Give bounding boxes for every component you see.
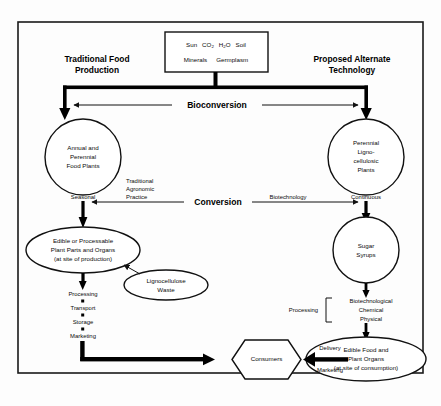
node-edible-food-line3: (at site of consumption) bbox=[334, 364, 398, 371]
sugar-to-processing-arrowhead bbox=[362, 290, 369, 298]
node-waste-line2: Waste bbox=[157, 286, 175, 293]
bracket-item-chemical: Chemical bbox=[359, 307, 384, 313]
chain-bullet-2 bbox=[81, 314, 84, 317]
node-consumers-label: Consumers bbox=[251, 355, 283, 362]
processing-bracket bbox=[326, 298, 332, 322]
heading-right-line1: Proposed Alternate bbox=[314, 54, 391, 64]
bracket-item-physical: Physical bbox=[360, 316, 382, 322]
edge-label-traditional-line3: Practice bbox=[126, 194, 148, 200]
node-sugar-line2: Syrups bbox=[356, 251, 375, 258]
bar-right-arrowhead bbox=[361, 108, 372, 120]
chain-item-marketing: Marketing bbox=[70, 333, 96, 339]
edge-label-seasonal: Seasonal bbox=[71, 194, 96, 200]
edge-label-processing: Processing bbox=[289, 307, 318, 313]
node-ligno-line1: Perennial bbox=[353, 139, 379, 146]
chain-bullet-3 bbox=[81, 328, 84, 331]
node-edible-proc-line1: Edible or Processable bbox=[53, 237, 114, 244]
node-ligno-line3: cellulosic bbox=[353, 157, 378, 164]
node-waste-line1: Lignocellulose bbox=[146, 277, 186, 284]
node-annual-line2: Perennial bbox=[70, 153, 96, 160]
edge-label-traditional-line1: Traditional bbox=[126, 178, 153, 184]
chain-item-storage: Storage bbox=[73, 319, 94, 325]
diagram-canvas: SunCO2H2OSoil MineralsGermplasm Traditio… bbox=[0, 0, 441, 406]
delivery-arrow-shaft bbox=[312, 357, 348, 361]
chain-bullet-1 bbox=[81, 300, 84, 303]
heading-right-line2: Technology bbox=[329, 65, 376, 75]
node-edible-proc-line3: (at site of production) bbox=[54, 255, 112, 262]
edge-label-traditional-line2: Agronomic bbox=[126, 186, 154, 192]
edible-to-chain-arrowhead bbox=[79, 281, 87, 290]
chain-item-processing: Processing bbox=[68, 291, 97, 297]
heading-left-line1: Traditional Food bbox=[64, 54, 129, 64]
bioconversion-flowchart: SunCO2H2OSoil MineralsGermplasm Traditio… bbox=[0, 0, 441, 406]
node-edible-food-line2: Plant Organs bbox=[348, 355, 384, 362]
node-sugar-line1: Sugar bbox=[358, 242, 375, 249]
bracket-item-biotechnological: Biotechnological bbox=[350, 298, 393, 304]
continuous-shaft bbox=[364, 201, 367, 215]
node-edible-proc-line2: Plant Parts and Organs bbox=[51, 246, 115, 253]
edge-label-marketing: Marketing bbox=[317, 367, 343, 373]
waste-to-edible-arrow bbox=[124, 265, 140, 274]
seasonal-shaft bbox=[81, 201, 84, 219]
node-ligno-line2: Ligno- bbox=[357, 148, 374, 155]
edge-label-delivery: Delivery bbox=[319, 345, 340, 351]
node-annual-line1: Annual and bbox=[67, 144, 99, 151]
inputs-stem bbox=[214, 72, 218, 87]
heading-left-line2: Production bbox=[75, 65, 119, 75]
bar-left-arrowhead bbox=[59, 108, 70, 120]
chain-to-consumers-arrowhead bbox=[203, 354, 215, 366]
bioconversion-bar bbox=[63, 86, 368, 90]
inputs-box bbox=[165, 32, 268, 72]
edge-label-continuous: Continuous bbox=[351, 194, 381, 200]
node-edible-food-line1: Edible Food and bbox=[343, 346, 389, 353]
edge-label-biotechnology: Biotechnology bbox=[269, 194, 306, 200]
inputs-line-2: MineralsGermplasm bbox=[184, 56, 248, 63]
chain-to-consumers-horizontal bbox=[80, 357, 205, 361]
bar-left-shaft bbox=[63, 86, 67, 112]
bioconversion-label: Bioconversion bbox=[187, 100, 247, 110]
chain-item-transport: Transport bbox=[71, 305, 96, 311]
node-ligno-line4: Plants bbox=[357, 166, 374, 173]
conversion-label: Conversion bbox=[194, 197, 241, 207]
bar-right-shaft bbox=[364, 86, 368, 112]
node-annual-line3: Food Plants bbox=[66, 162, 99, 169]
